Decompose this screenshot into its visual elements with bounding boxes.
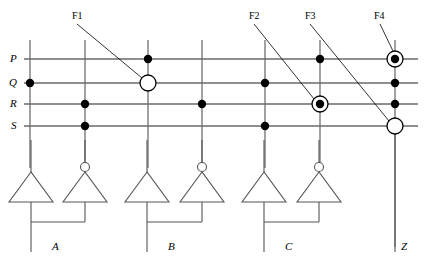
logic-gates [9, 140, 341, 202]
circuit-canvas [0, 0, 424, 263]
node-s-col7 [387, 118, 403, 134]
output-label-z: Z [401, 241, 407, 252]
callout-label-f1: F1 [72, 11, 83, 21]
bus-label-q: Q [9, 77, 17, 88]
bus-label-p: P [10, 53, 17, 64]
output-wires [31, 126, 395, 252]
bus-label-r: R [10, 98, 17, 109]
callout-f2-leader [254, 24, 314, 99]
node-q-col3 [140, 75, 156, 91]
node-p-col6 [316, 55, 324, 63]
node-q-col1 [26, 79, 34, 87]
callout-leader-lines [77, 24, 393, 121]
callout-f1-leader [77, 24, 142, 78]
callout-label-f2: F2 [249, 11, 260, 21]
gate-1-triangle-icon [9, 172, 53, 202]
node-r-col7 [391, 100, 399, 108]
callout-label-f3: F3 [305, 11, 316, 21]
horizontal-bus-lines [24, 59, 418, 126]
output-label-b: B [168, 241, 175, 252]
gate-4-triangle-icon [180, 172, 224, 202]
callout-f4-leader [380, 24, 393, 51]
node-q-col7 [391, 79, 399, 87]
output-label-a: A [52, 241, 59, 252]
gate-3-triangle-icon [125, 172, 169, 202]
node-p-col3 [144, 55, 152, 63]
node-s-col2 [81, 122, 89, 130]
node-p-col7 [391, 55, 399, 63]
node-r-col6 [316, 100, 324, 108]
gate-6-triangle-icon [297, 172, 341, 202]
gate-4-bubble-icon [198, 163, 207, 172]
gate-2-bubble-icon [81, 163, 90, 172]
node-r-col2 [81, 100, 89, 108]
bus-label-s: S [11, 120, 17, 131]
node-q-col5 [261, 79, 269, 87]
circuit-diagram: P Q R S F1 F2 F3 F4 A B C Z [0, 0, 424, 263]
node-s-col5 [261, 122, 269, 130]
output-label-c: C [285, 241, 292, 252]
connection-nodes [26, 51, 403, 134]
callout-label-f4: F4 [374, 11, 385, 21]
gate-6-bubble-icon [315, 163, 324, 172]
gate-2-triangle-icon [63, 172, 107, 202]
node-r-col4 [198, 100, 206, 108]
gate-5-triangle-icon [242, 172, 286, 202]
